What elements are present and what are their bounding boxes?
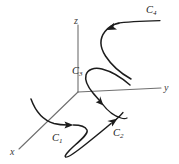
- curve-label-c1-base: C: [52, 132, 59, 143]
- curve-label-c2-subscript: 2: [120, 132, 124, 140]
- curve-label-c4-subscript: 4: [153, 9, 157, 17]
- curve-label-c1: C1: [52, 133, 63, 144]
- curve-label-c2: C2: [113, 128, 124, 139]
- curve-label-c3-base: C: [72, 65, 79, 76]
- curve-label-c3: C3: [72, 66, 83, 77]
- curve-label-c3-subscript: 3: [79, 70, 83, 78]
- axis-label-x: x: [10, 147, 14, 157]
- curve-label-c4-base: C: [146, 4, 153, 15]
- figure-container: z y x C1 C2 C3 C4: [0, 0, 179, 164]
- curve-c4-group: [101, 21, 160, 79]
- curve-c4-tail-path: [116, 21, 160, 24]
- axis-label-y: y: [164, 83, 168, 93]
- axis-label-z: z: [74, 16, 78, 26]
- axes-group: [19, 25, 161, 149]
- curve-label-c1-subscript: 1: [59, 137, 63, 145]
- curve-label-c4: C4: [146, 5, 157, 16]
- curve-c2-path: [65, 124, 111, 158]
- curve-c1-group: [31, 99, 74, 129]
- curve-c3-path: [86, 68, 130, 100]
- curve-label-c2-base: C: [113, 127, 120, 138]
- curve-c3-group: [86, 68, 130, 118]
- figure-svg: [0, 0, 179, 164]
- curve-c3-tail-path: [103, 104, 128, 119]
- curve-c1-path: [31, 99, 68, 125]
